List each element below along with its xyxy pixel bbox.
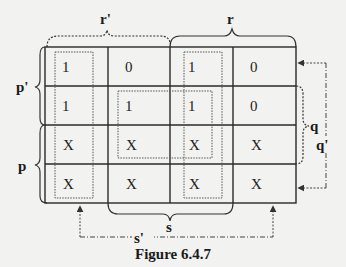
cell-r1-c4: 0	[250, 59, 258, 75]
cell-r4-c4: X	[251, 176, 262, 192]
cell-r1-c3: 1	[188, 59, 196, 75]
cell-r4-c1: X	[63, 176, 74, 192]
cell-r4-c3: X	[189, 176, 200, 192]
cell-r4-c2: X	[126, 176, 137, 192]
q-prime-label: q'	[316, 137, 329, 153]
cell-r3-c4: X	[251, 137, 262, 153]
cell-r2-c2: 1	[125, 98, 133, 114]
cell-r2-c4: 0	[250, 98, 258, 114]
s-label: s	[166, 219, 172, 235]
q-brace	[296, 86, 309, 164]
cell-r2-c3: 1	[188, 98, 196, 114]
cell-r3-c1: X	[63, 137, 74, 153]
figure-caption: Figure 6.4.7	[0, 246, 346, 263]
r-brace	[170, 29, 296, 47]
cell-r3-c2: X	[126, 137, 137, 153]
p-prime-label: p'	[16, 79, 29, 95]
p-label: p	[18, 158, 26, 174]
r-prime-label: r'	[100, 11, 111, 27]
cell-r1-c1: 1	[62, 59, 70, 75]
q-label: q	[310, 118, 319, 134]
cell-r2-c1: 1	[62, 98, 70, 114]
karnaugh-map-diagram: r' r p' p q q' s s' 1 0 1 0 1 1	[0, 0, 346, 267]
s-prime-label: s'	[134, 230, 144, 246]
r-prime-brace	[47, 30, 170, 47]
cell-r3-c3: X	[189, 137, 200, 153]
cell-r1-c2: 0	[125, 59, 133, 75]
p-prime-brace	[35, 47, 45, 125]
r-label: r	[227, 11, 234, 27]
